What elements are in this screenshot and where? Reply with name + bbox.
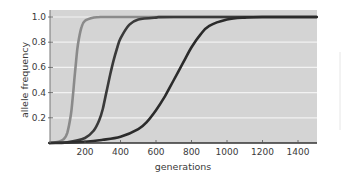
x-tick-label: 1400 xyxy=(287,147,310,157)
y-tick-label: 0.8 xyxy=(32,37,47,47)
x-tick-label: 1200 xyxy=(251,147,274,157)
y-axis-label: allele frequency xyxy=(19,42,30,118)
x-tick-label: 200 xyxy=(76,147,93,157)
x-tick-label: 1000 xyxy=(216,147,239,157)
allele-frequency-chart: 200400600800100012001400 0.20.40.60.81.0… xyxy=(0,0,343,182)
y-tick-label: 0.6 xyxy=(32,62,47,72)
y-tick-label: 0.2 xyxy=(32,113,46,123)
y-tick-label: 1.0 xyxy=(32,12,47,22)
x-axis-label: generations xyxy=(155,161,212,172)
x-tick-label: 800 xyxy=(183,147,200,157)
x-tick-label: 600 xyxy=(147,147,164,157)
plot-background xyxy=(50,10,317,143)
x-tick-label: 400 xyxy=(112,147,129,157)
y-tick-label: 0.4 xyxy=(32,88,47,98)
